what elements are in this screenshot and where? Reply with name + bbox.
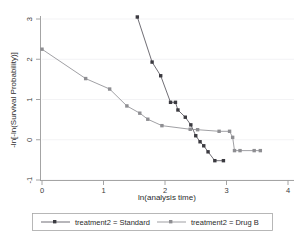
- legend-swatch-standard-marker: [53, 220, 56, 223]
- data-point-standard: [136, 15, 139, 18]
- data-point-drugb: [138, 111, 141, 114]
- data-point-drugb: [233, 149, 236, 152]
- data-point-drugb: [84, 77, 87, 80]
- data-point-drugb: [196, 128, 199, 131]
- data-point-drugb: [238, 149, 241, 152]
- data-point-drugb: [228, 130, 231, 133]
- data-point-standard: [159, 74, 162, 77]
- data-point-standard: [202, 144, 205, 147]
- data-point-drugb: [189, 128, 192, 131]
- y-axis-title: -ln[-ln(Survival Probability)]: [9, 52, 18, 148]
- y-tick-label: 2: [25, 57, 34, 61]
- y-tick-label: 3: [25, 17, 34, 21]
- data-point-drugb: [125, 104, 128, 107]
- survival-loglog-chart: -10123 01234 -ln[-ln(Survival Probabilit…: [0, 0, 300, 238]
- data-point-standard: [194, 134, 197, 137]
- data-point-standard: [184, 116, 187, 119]
- x-tick-label: 4: [286, 186, 290, 195]
- data-point-drugb: [40, 47, 43, 50]
- chart-background: [0, 0, 300, 238]
- x-tick-label: 0: [40, 186, 44, 195]
- chart-figure: -10123 01234 -ln[-ln(Survival Probabilit…: [0, 0, 300, 238]
- x-tick-label: 1: [101, 186, 105, 195]
- x-tick-label: 3: [224, 186, 228, 195]
- y-tick-label: 0: [25, 138, 34, 142]
- legend-label-drugb: treatment2 = Drug B: [191, 218, 259, 227]
- data-point-standard: [222, 159, 225, 162]
- data-point-drugb: [217, 130, 220, 133]
- data-point-drugb: [252, 149, 255, 152]
- data-point-drugb: [259, 149, 262, 152]
- legend-swatch-drugb-marker: [169, 220, 172, 223]
- data-point-standard: [174, 101, 177, 104]
- data-point-drugb: [231, 136, 234, 139]
- data-point-standard: [169, 101, 172, 104]
- data-point-standard: [213, 159, 216, 162]
- data-point-standard: [150, 60, 153, 63]
- data-point-drugb: [108, 87, 111, 90]
- y-tick-label: -1: [25, 177, 34, 184]
- data-point-drugb: [160, 124, 163, 127]
- y-tick-label: 1: [25, 98, 34, 102]
- data-point-drugb: [146, 118, 149, 121]
- data-point-standard: [206, 150, 209, 153]
- data-point-standard: [189, 123, 192, 126]
- x-axis-title: ln(analysis time): [138, 193, 196, 202]
- legend-label-standard: treatment2 = Standard: [75, 218, 150, 227]
- data-point-standard: [198, 140, 201, 143]
- data-point-standard: [176, 108, 179, 111]
